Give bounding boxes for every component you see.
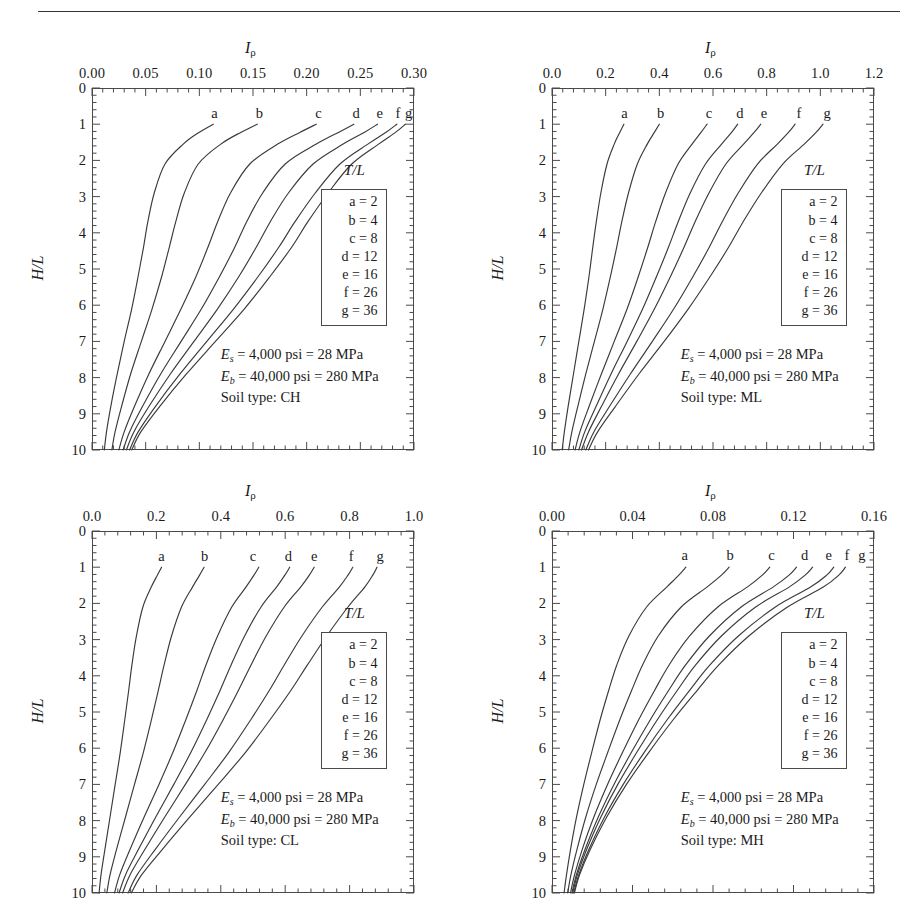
y-tick-label: 6 xyxy=(62,297,86,314)
annotation-line-2: Eb = 40,000 psi = 280 MPa xyxy=(681,809,839,831)
y-axis-title: H/L xyxy=(489,238,507,298)
curve-label-a: a xyxy=(621,105,627,122)
annotation-block: Es = 4,000 psi = 28 MPaEb = 40,000 psi =… xyxy=(681,344,839,408)
annotation-line-1: Es = 4,000 psi = 28 MPa xyxy=(681,344,839,366)
y-axis-title: H/L xyxy=(29,681,47,741)
y-tick-label: 4 xyxy=(522,667,546,684)
y-tick-label: 1 xyxy=(62,559,86,576)
chart-panel-ch: 0.000.050.100.150.200.250.30012345678910… xyxy=(0,20,460,471)
x-tick-label: 1.0 xyxy=(811,65,830,82)
x-tick-label: 0.20 xyxy=(294,65,320,82)
y-tick-label: 0 xyxy=(522,80,546,97)
y-tick-label: 9 xyxy=(62,848,86,865)
y-tick-label: 3 xyxy=(522,631,546,648)
y-tick-label: 3 xyxy=(62,631,86,648)
legend-entry-b: b = 4 xyxy=(331,655,377,673)
annotation-line-3: Soil type: MH xyxy=(681,830,839,851)
y-tick-label: 4 xyxy=(62,224,86,241)
y-tick-label: 0 xyxy=(62,523,86,540)
x-tick-label: 0.2 xyxy=(147,508,166,525)
curve-label-f: f xyxy=(796,105,801,122)
curve-label-b: b xyxy=(201,548,208,565)
y-tick-label: 2 xyxy=(522,595,546,612)
annotation-block: Es = 4,000 psi = 28 MPaEb = 40,000 psi =… xyxy=(221,344,379,408)
x-tick-label: 1.0 xyxy=(405,508,424,525)
legend-entry-g: g = 36 xyxy=(791,745,837,763)
y-tick-label: 2 xyxy=(62,595,86,612)
curve-label-b: b xyxy=(256,105,263,122)
curve-label-c: c xyxy=(768,547,774,564)
y-tick-label: 1 xyxy=(522,116,546,133)
x-tick-label: 0.30 xyxy=(401,65,427,82)
y-tick-label: 6 xyxy=(522,297,546,314)
legend-entry-d: d = 12 xyxy=(331,691,377,709)
curve-label-f: f xyxy=(844,547,849,564)
annotation-line-2: Eb = 40,000 psi = 280 MPa xyxy=(221,366,379,388)
y-tick-label: 10 xyxy=(62,442,86,459)
y-tick-label: 10 xyxy=(522,442,546,459)
x-tick-label: 0.16 xyxy=(861,508,887,525)
legend-entry-g: g = 36 xyxy=(791,302,837,320)
page-header-rule xyxy=(38,11,900,12)
legend-entry-a: a = 2 xyxy=(331,193,377,211)
curve-label-g: g xyxy=(377,548,384,565)
legend-box: a = 2b = 4c = 8d = 12e = 16f = 26g = 36 xyxy=(321,632,387,768)
x-axis-label-subscript: ρ xyxy=(710,489,716,501)
curve-label-a: a xyxy=(158,548,164,565)
y-tick-label: 7 xyxy=(62,776,86,793)
curve-label-b: b xyxy=(726,547,733,564)
y-tick-label: 8 xyxy=(522,812,546,829)
y-axis-title: H/L xyxy=(489,681,507,741)
legend-entry-e: e = 16 xyxy=(331,709,377,727)
legend-entry-a: a = 2 xyxy=(331,636,377,654)
curve-a xyxy=(564,567,686,893)
y-axis-title: H/L xyxy=(29,238,47,298)
legend-entry-a: a = 2 xyxy=(791,193,837,211)
curve-label-e: e xyxy=(311,548,317,565)
curve-label-e: e xyxy=(376,105,382,122)
x-tick-label: 0.4 xyxy=(650,65,669,82)
x-tick-label: 0.8 xyxy=(340,508,359,525)
annotation-line-3: Soil type: CH xyxy=(221,387,379,408)
y-tick-label: 8 xyxy=(62,369,86,386)
curve-label-c: c xyxy=(315,105,321,122)
x-tick-label: 0.2 xyxy=(596,65,615,82)
y-tick-label: 5 xyxy=(62,261,86,278)
x-axis-label-subscript: ρ xyxy=(250,46,256,58)
x-tick-label: 0.6 xyxy=(276,508,295,525)
chart-panel-cl: 0.00.20.40.60.81.0012345678910IρH/Labcde… xyxy=(0,471,460,922)
curve-label-b: b xyxy=(657,105,664,122)
x-axis-label-subscript: ρ xyxy=(250,489,256,501)
curve-b xyxy=(107,567,204,893)
legend-entry-c: c = 8 xyxy=(331,230,377,248)
y-tick-label: 7 xyxy=(522,776,546,793)
curve-label-d: d xyxy=(352,105,359,122)
legend-entry-c: c = 8 xyxy=(791,673,837,691)
curve-label-a: a xyxy=(682,547,688,564)
curve-label-e: e xyxy=(761,105,767,122)
y-tick-label: 7 xyxy=(62,333,86,350)
y-tick-label: 6 xyxy=(62,740,86,757)
legend-entry-a: a = 2 xyxy=(791,636,837,654)
plot-area: 0.000.040.080.120.16012345678910IρH/Labc… xyxy=(552,531,874,893)
x-tick-label: 0.05 xyxy=(133,65,159,82)
x-axis-title: Iρ xyxy=(245,40,256,58)
y-tick-label: 7 xyxy=(522,333,546,350)
x-axis-title: Iρ xyxy=(705,483,716,501)
curve-label-g: g xyxy=(823,105,830,122)
curve-a xyxy=(562,124,624,450)
curve-label-c: c xyxy=(706,105,712,122)
x-tick-label: 0.08 xyxy=(700,508,726,525)
legend-entry-f: f = 26 xyxy=(791,284,837,302)
legend-entry-c: c = 8 xyxy=(331,673,377,691)
x-tick-label: 0.4 xyxy=(211,508,230,525)
y-tick-label: 3 xyxy=(62,188,86,205)
x-tick-label: 0.25 xyxy=(347,65,373,82)
curve-label-a: a xyxy=(211,105,217,122)
legend-entry-d: d = 12 xyxy=(791,248,837,266)
annotation-line-1: Es = 4,000 psi = 28 MPa xyxy=(221,344,379,366)
plot-area: 0.000.050.100.150.200.250.30012345678910… xyxy=(92,88,414,450)
legend-entry-d: d = 12 xyxy=(791,691,837,709)
x-tick-label: 1.2 xyxy=(865,65,884,82)
curve-label-g: g xyxy=(405,105,412,122)
